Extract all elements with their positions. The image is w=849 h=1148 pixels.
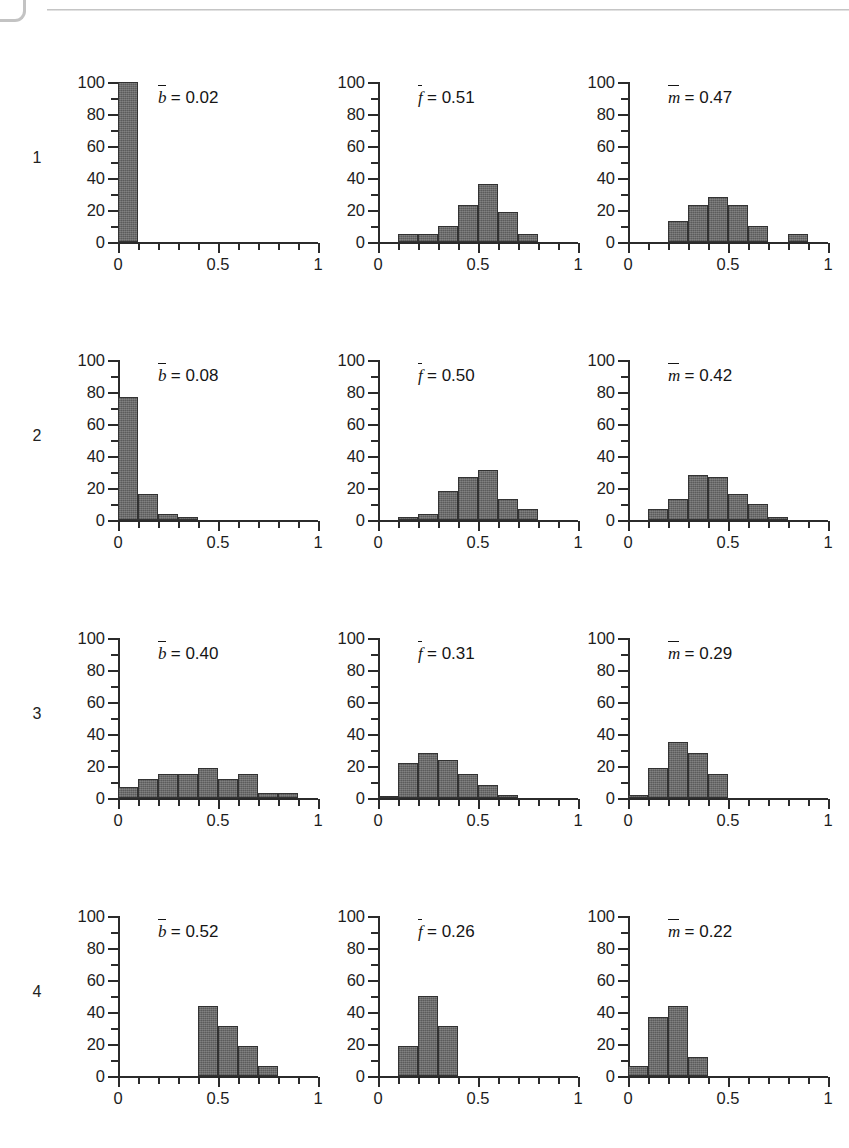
y-tick-40 [108, 1012, 118, 1014]
y-tick-100 [368, 638, 378, 640]
histogram-bar [278, 793, 298, 798]
y-tick-20 [618, 488, 628, 490]
x-tick-label-0.5: 0.5 [467, 1090, 490, 1107]
bar-series [378, 638, 578, 798]
mean-value: = 0.31 [427, 644, 475, 663]
x-tick-0.4 [458, 1077, 460, 1084]
histogram-bar [418, 996, 438, 1076]
x-tick-0.7 [518, 799, 520, 806]
mean-symbol: f [418, 87, 423, 107]
y-tick-label-40: 40 [87, 726, 105, 743]
y-tick-label-40: 40 [347, 448, 365, 465]
histogram-bar [258, 793, 278, 798]
y-tick-40 [108, 178, 118, 180]
mean-symbol: f [418, 643, 423, 663]
bar-series [378, 916, 578, 1076]
y-tick-label-40: 40 [597, 726, 615, 743]
y-tick-100 [368, 916, 378, 918]
y-tick-50 [621, 440, 628, 442]
x-tick-0.8 [278, 243, 280, 250]
y-tick-100 [108, 360, 118, 362]
y-tick-80 [108, 114, 118, 116]
x-tick-0.1 [648, 243, 650, 250]
y-tick-label-80: 80 [87, 662, 105, 679]
x-tick-0.2 [158, 799, 160, 806]
x-tick-0.2 [668, 521, 670, 528]
x-tick-0.9 [298, 243, 300, 250]
y-tick-40 [108, 734, 118, 736]
y-tick-70 [621, 408, 628, 410]
x-tick-0 [628, 521, 630, 531]
x-tick-0.4 [458, 799, 460, 806]
y-tick-20 [108, 210, 118, 212]
x-tick-0.1 [138, 1077, 140, 1084]
y-tick-30 [621, 472, 628, 474]
y-tick-label-0: 0 [356, 234, 365, 251]
x-tick-0.2 [668, 243, 670, 250]
y-tick-label-100: 100 [587, 630, 615, 647]
y-tick-label-0: 0 [356, 790, 365, 807]
x-tick-label-0.5: 0.5 [717, 812, 740, 829]
mean-symbol: m [668, 921, 680, 941]
y-tick-60 [368, 980, 378, 982]
x-tick-label-0.5: 0.5 [467, 256, 490, 273]
mean-value: = 0.52 [171, 922, 219, 941]
y-tick-20 [108, 488, 118, 490]
y-tick-0 [368, 1076, 378, 1078]
histogram-bar [498, 499, 518, 520]
x-tick-0.7 [258, 799, 260, 806]
x-tick-0.4 [708, 1077, 710, 1084]
x-tick-1 [318, 243, 320, 253]
histogram-bar [788, 234, 808, 242]
x-tick-0.7 [768, 521, 770, 528]
y-tick-70 [371, 130, 378, 132]
x-tick-0.9 [558, 1077, 560, 1084]
histogram-bar [748, 226, 768, 242]
y-tick-100 [108, 638, 118, 640]
mean-symbol: b [158, 365, 167, 385]
histogram-bar [458, 205, 478, 242]
histogram-bar [628, 1066, 648, 1076]
y-tick-80 [618, 670, 628, 672]
y-tick-60 [108, 424, 118, 426]
y-tick-label-60: 60 [597, 694, 615, 711]
histogram-bar [708, 477, 728, 520]
histogram-bar [498, 212, 518, 242]
x-tick-0.3 [438, 243, 440, 250]
y-tick-90 [621, 654, 628, 656]
histogram-panel-row1-col3: 02040608010000.51m = 0.47 [576, 34, 826, 312]
x-tick-0.4 [198, 1077, 200, 1084]
x-tick-0.3 [688, 1077, 690, 1084]
y-tick-label-20: 20 [597, 1036, 615, 1053]
y-tick-label-80: 80 [597, 662, 615, 679]
y-tick-90 [371, 932, 378, 934]
y-tick-70 [111, 408, 118, 410]
y-tick-0 [618, 1076, 628, 1078]
y-tick-70 [371, 408, 378, 410]
y-tick-label-80: 80 [347, 106, 365, 123]
x-tick-0.3 [438, 799, 440, 806]
mean-value: = 0.08 [171, 366, 219, 385]
x-tick-0 [628, 799, 630, 809]
y-tick-30 [111, 472, 118, 474]
y-tick-label-100: 100 [587, 352, 615, 369]
x-tick-0.3 [178, 243, 180, 250]
y-tick-label-100: 100 [337, 630, 365, 647]
y-tick-10 [111, 226, 118, 228]
y-tick-label-100: 100 [337, 352, 365, 369]
y-tick-0 [368, 520, 378, 522]
x-tick-0.3 [178, 799, 180, 806]
histogram-bar [398, 234, 418, 242]
x-tick-0.1 [138, 243, 140, 250]
mean-value: = 0.47 [685, 88, 733, 107]
x-tick-0.4 [458, 521, 460, 528]
y-tick-10 [621, 1060, 628, 1062]
x-tick-0.5 [728, 799, 730, 809]
y-tick-label-100: 100 [77, 74, 105, 91]
x-tick-0 [118, 521, 120, 531]
y-tick-70 [111, 964, 118, 966]
y-tick-50 [621, 996, 628, 998]
histogram-bar [118, 787, 138, 798]
y-tick-30 [371, 750, 378, 752]
mean-symbol: m [668, 87, 680, 107]
